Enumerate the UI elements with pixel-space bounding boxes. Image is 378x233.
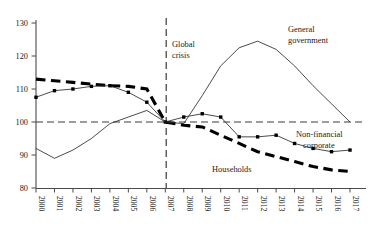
x-axis-tick-labels: 2000200120022003200420052006200720082009… (37, 196, 360, 211)
x-tick-label: 2012 (259, 196, 268, 211)
x-tick-label: 2010 (222, 196, 231, 211)
x-tick-label: 2000 (37, 196, 46, 211)
y-tick-label: 130 (16, 19, 28, 28)
series-households (36, 79, 350, 171)
annotation-line-1: Global (172, 40, 195, 49)
x-tick-label: 2014 (296, 196, 305, 211)
x-axis-ticks (36, 189, 350, 193)
x-tick-label: 2016 (333, 196, 342, 211)
annotation-general-government: General government (288, 25, 329, 45)
y-axis-ticks (32, 23, 37, 188)
data-point-marker (256, 135, 259, 138)
data-point-marker (348, 148, 351, 151)
data-point-marker (53, 89, 56, 92)
data-point-marker (90, 85, 93, 88)
data-point-marker (293, 142, 296, 145)
x-tick-label: 2015 (314, 196, 323, 211)
x-tick-label: 2011 (240, 196, 249, 211)
annotation-line-2: government (288, 36, 329, 45)
data-point-marker (274, 134, 277, 137)
x-tick-label: 2005 (129, 196, 138, 211)
x-tick-label: 2004 (111, 196, 120, 211)
x-tick-label: 2009 (203, 196, 212, 211)
annotation-line-2: corporate (303, 141, 335, 150)
y-tick-label: 100 (16, 118, 28, 127)
y-tick-label: 80 (20, 184, 28, 193)
x-tick-label: 2002 (74, 196, 83, 211)
x-tick-label: 2001 (55, 196, 64, 211)
x-tick-label: 2008 (185, 196, 194, 211)
chart-container: 130 120 110 100 90 80 200020012002200320… (0, 0, 378, 233)
data-point-marker (219, 115, 222, 118)
x-tick-label: 2013 (277, 196, 286, 211)
data-point-marker (34, 96, 37, 99)
annotation-global-crisis: Global crisis (172, 40, 195, 60)
data-point-marker (330, 150, 333, 153)
annotation-line-1: General (288, 25, 315, 34)
annotation-households: Households (212, 165, 252, 174)
data-point-marker (108, 84, 111, 87)
x-tick-label: 2007 (166, 196, 175, 211)
x-tick-label: 2017 (351, 196, 360, 211)
data-point-marker (237, 135, 240, 138)
data-point-marker (182, 115, 185, 118)
y-tick-label: 90 (20, 151, 28, 160)
data-point-marker (127, 91, 130, 94)
annotation-line-1: Households (212, 165, 252, 174)
data-point-marker (201, 112, 204, 115)
annotation-non-financial-corporate: Non-financial corporate (296, 130, 343, 150)
series-layer (34, 41, 351, 171)
annotation-line-1: Non-financial (296, 130, 343, 139)
series-path (36, 79, 350, 171)
x-tick-label: 2003 (92, 196, 101, 211)
line-chart-svg: 130 120 110 100 90 80 200020012002200320… (0, 0, 378, 233)
y-axis-tick-labels: 130 120 110 100 90 80 (16, 19, 28, 193)
data-point-marker (71, 87, 74, 90)
y-tick-label: 120 (16, 52, 28, 61)
annotation-line-2: crisis (172, 51, 190, 60)
x-tick-label: 2006 (148, 196, 157, 211)
data-point-marker (145, 101, 148, 104)
y-tick-label: 110 (16, 85, 28, 94)
